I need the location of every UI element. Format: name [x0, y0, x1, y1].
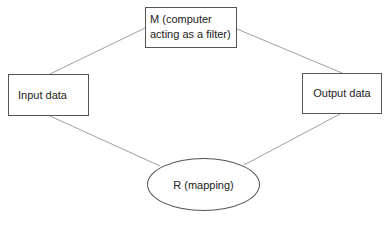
node-m-label-line1: M (computer — [150, 12, 232, 27]
node-output-data: Output data — [302, 73, 382, 114]
node-m-label-line2: acting as a filter) — [150, 27, 232, 42]
node-r-mapping: R (mapping) — [147, 158, 260, 211]
edge-r-to-output — [244, 114, 340, 165]
node-output-label: Output data — [313, 86, 371, 101]
edge-m-to-output — [237, 29, 342, 73]
edge-input-to-m — [50, 28, 145, 74]
node-input-data: Input data — [8, 74, 89, 116]
node-r-label: R (mapping) — [173, 179, 234, 191]
node-m-computer-filter: M (computer acting as a filter) — [145, 7, 237, 48]
node-input-label: Input data — [18, 88, 67, 103]
edge-input-to-r — [50, 116, 160, 166]
